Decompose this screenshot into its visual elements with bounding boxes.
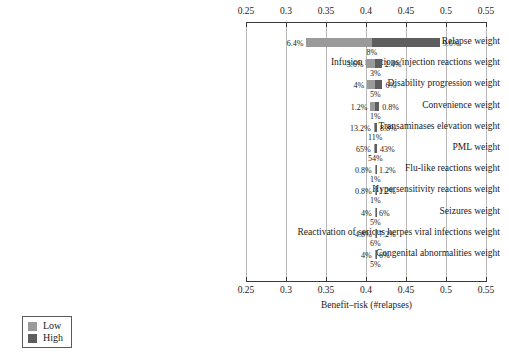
bar-segment-high	[375, 123, 377, 132]
bar-segment-low	[366, 59, 375, 68]
bar-value-base: 5%	[345, 260, 405, 269]
bar-value-high: 9.6%	[443, 39, 460, 48]
tick-label-top-0.45: 0.45	[386, 6, 426, 16]
tornado-bar	[366, 59, 381, 68]
bar-value-high: 6%	[385, 81, 396, 90]
tornado-bar	[375, 165, 376, 174]
bar-segment-high	[372, 38, 440, 47]
bar-value-base: 5%	[345, 218, 405, 227]
bar-value-low: 4%	[303, 81, 364, 90]
tick-top-0.25	[246, 22, 247, 27]
bar-value-base: 11%	[345, 133, 405, 142]
bar-value-high: 43%	[380, 145, 395, 154]
tick-label-top-0.3: 0.3	[266, 6, 306, 16]
tick-top-0.55	[486, 22, 487, 27]
bar-value-low: 4.8%	[311, 230, 372, 239]
bar-segment-high	[375, 59, 381, 68]
tick-top-0.35	[326, 22, 327, 27]
tick-label-bottom-0.25: 0.25	[226, 285, 266, 295]
tornado-bar	[375, 250, 376, 259]
bar-value-base: 8%	[342, 48, 402, 57]
x-axis-title: Benefit–risk (#relapses)	[246, 300, 487, 310]
tick-label-top-0.35: 0.35	[306, 6, 346, 16]
tick-bottom-0.25	[246, 277, 247, 282]
bar-value-low: 4%	[311, 209, 372, 218]
tick-label-bottom-0.45: 0.45	[386, 285, 426, 295]
bar-value-base: 1%	[345, 112, 405, 121]
tick-label-bottom-0.4: 0.4	[346, 285, 386, 295]
tornado-bar	[375, 229, 376, 238]
bar-value-low: 0.8%	[311, 187, 372, 196]
bar-segment-low	[367, 80, 375, 89]
legend-item-low: Low	[28, 320, 63, 332]
tornado-bar	[375, 208, 376, 217]
bar-value-base: 1%	[345, 196, 405, 205]
tick-top-0.4	[366, 22, 367, 27]
bar-value-low: 6.4%	[242, 39, 303, 48]
bar-value-base: 6%	[345, 239, 405, 248]
tick-bottom-0.35	[326, 277, 327, 282]
bar-segment-high	[375, 102, 379, 111]
legend-swatch-high-icon	[28, 334, 37, 343]
tick-label-bottom-0.3: 0.3	[266, 285, 306, 295]
bar-value-high: 0.8%	[382, 103, 399, 112]
tick-bottom-0.4	[366, 277, 367, 282]
tick-top-0.3	[286, 22, 287, 27]
bar-value-high: 8.8%	[380, 124, 397, 133]
tornado-bar	[367, 80, 382, 89]
bar-segment-high	[375, 80, 382, 89]
tick-label-top-0.25: 0.25	[226, 6, 266, 16]
legend-label-low: Low	[43, 320, 61, 332]
gridline-0.25	[246, 22, 247, 281]
tick-bottom-0.5	[446, 277, 447, 282]
bar-value-base: 1%	[345, 175, 405, 184]
bar-value-high: 1.2%	[379, 166, 396, 175]
tick-bottom-0.45	[406, 277, 407, 282]
tick-label-top-0.55: 0.55	[466, 6, 506, 16]
bar-value-base: 54%	[345, 154, 405, 163]
tornado-bar	[374, 123, 377, 132]
bar-segment-high	[376, 250, 377, 259]
bar-segment-high	[376, 186, 377, 195]
tornado-bar	[370, 102, 379, 111]
bar-value-base: 3%	[345, 69, 405, 78]
tornado-bar	[374, 144, 377, 153]
bar-value-low: 3.6%	[302, 60, 363, 69]
tick-label-top-0.5: 0.5	[426, 6, 466, 16]
bar-value-high: 6%	[379, 251, 390, 260]
bar-value-base: 5%	[345, 90, 405, 99]
bar-value-high: 6%	[379, 209, 390, 218]
tick-label-bottom-0.55: 0.55	[466, 285, 506, 295]
legend-label-high: High	[43, 332, 63, 344]
bar-value-low: 65%	[310, 145, 371, 154]
tornado-chart: 0.250.30.350.40.450.50.55 0.250.30.350.4…	[0, 0, 509, 360]
bar-value-low: 13.2%	[310, 124, 371, 133]
tick-top-0.5	[446, 22, 447, 27]
legend-swatch-low-icon	[28, 322, 37, 331]
tornado-bar	[375, 186, 376, 195]
tick-bottom-0.55	[486, 277, 487, 282]
legend-item-high: High	[28, 332, 63, 344]
tick-label-bottom-0.35: 0.35	[306, 285, 346, 295]
bar-value-low: 1.2%	[306, 103, 367, 112]
tick-label-bottom-0.5: 0.5	[426, 285, 466, 295]
tick-top-0.45	[406, 22, 407, 27]
tick-bottom-0.3	[286, 277, 287, 282]
bar-value-high: 1.2%	[379, 187, 396, 196]
tick-label-top-0.4: 0.4	[346, 6, 386, 16]
bar-segment-high	[376, 165, 377, 174]
bar-value-high: 7.2%	[379, 230, 396, 239]
bar-segment-high	[375, 144, 377, 153]
tornado-bar	[306, 38, 439, 47]
legend: Low High	[22, 316, 72, 348]
bar-segment-high	[376, 208, 377, 217]
bar-value-high: 2.4%	[385, 60, 402, 69]
bar-segment-low	[306, 38, 371, 47]
bar-segment-high	[376, 229, 377, 238]
bar-value-low: 4%	[311, 251, 372, 260]
bar-value-low: 0.8%	[311, 166, 372, 175]
